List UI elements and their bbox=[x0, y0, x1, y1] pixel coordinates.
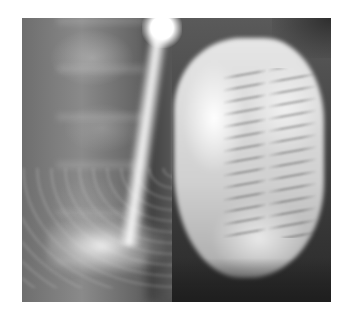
lower-shadow bbox=[172, 258, 331, 302]
xray-image bbox=[22, 18, 331, 302]
tube-bright-tip bbox=[142, 18, 182, 48]
bowel-mucosal-folds bbox=[222, 68, 322, 238]
pelvis-bright-area bbox=[47, 213, 167, 273]
